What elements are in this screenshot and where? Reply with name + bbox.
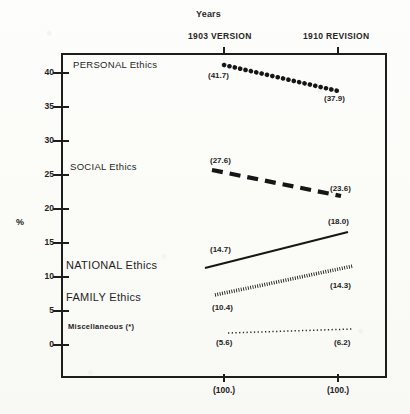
y-tick-20 (53, 208, 69, 210)
value-label-personal-1903: (41.7) (208, 71, 229, 80)
chart-page: Years 1903 VERSION 1910 REVISION 40 35 3… (0, 0, 410, 414)
chart-title: Years (196, 9, 221, 19)
column-total-1903: (100.) (213, 385, 235, 395)
y-axis-label: % (16, 217, 24, 227)
y-tick-label-35: 35 (24, 101, 54, 111)
column-header-1910: 1910 REVISION (303, 31, 369, 41)
y-tick-label-5: 5 (24, 305, 54, 315)
value-label-family-1903: (10.4) (212, 303, 233, 312)
series-label-national: NATIONAL Ethics (66, 259, 157, 271)
value-label-social-1910: (23.6) (330, 184, 351, 193)
column-header-1903: 1903 VERSION (188, 31, 252, 41)
value-label-personal-1910: (37.9) (324, 94, 345, 103)
y-tick-5 (53, 310, 69, 312)
y-tick-label-10: 10 (24, 271, 54, 281)
y-tick-25 (53, 174, 69, 176)
y-tick-0 (53, 344, 69, 346)
y-tick-15 (53, 242, 69, 244)
series-label-personal: PERSONAL Ethics (73, 59, 157, 70)
value-label-social-1903: (27.6) (210, 156, 231, 165)
value-label-family-1910: (14.3) (330, 281, 351, 290)
x-tick-bottom-1910 (337, 374, 339, 382)
value-label-miscellaneous-1910: (6.2) (334, 338, 350, 347)
series-label-social: SOCIAL Ethics (70, 161, 137, 172)
value-label-national-1910: (18.0) (328, 217, 349, 226)
y-tick-30 (53, 140, 69, 142)
y-tick-label-25: 25 (24, 169, 54, 179)
y-tick-label-15: 15 (24, 237, 54, 247)
y-tick-10 (53, 276, 69, 278)
y-tick-label-30: 30 (24, 135, 54, 145)
series-label-miscellaneous: Miscellaneous (*) (68, 322, 134, 331)
value-label-national-1903: (14.7) (210, 245, 231, 254)
series-label-family: FAMILY Ethics (66, 291, 141, 303)
y-tick-label-40: 40 (24, 67, 54, 77)
y-tick-label-20: 20 (24, 203, 54, 213)
column-total-1910: (100.) (327, 385, 349, 395)
y-tick-40 (53, 72, 69, 74)
x-tick-top-1910 (337, 47, 339, 55)
y-tick-label-0: 0 (24, 339, 54, 349)
x-tick-bottom-1903 (223, 374, 225, 382)
value-label-miscellaneous-1903: (5.6) (216, 338, 232, 347)
y-tick-35 (53, 106, 69, 108)
x-tick-top-1903 (223, 47, 225, 55)
